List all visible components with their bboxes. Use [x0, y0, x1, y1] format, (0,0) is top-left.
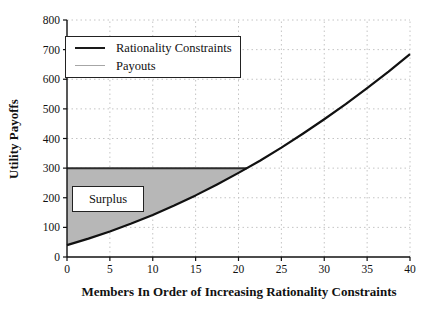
legend: Rationality Constraints Payouts	[65, 36, 241, 78]
x-axis-label: Members In Order of Increasing Rationali…	[66, 284, 412, 300]
x-tick-label-0: 0	[64, 263, 70, 275]
x-tick-label-15: 15	[190, 263, 202, 275]
rationality-constraints-line-sample	[75, 47, 105, 49]
legend-label-payouts: Payouts	[116, 59, 156, 73]
y-tick-label-100: 100	[43, 221, 61, 233]
x-tick-label-10: 10	[147, 263, 159, 275]
y-tick-label-200: 200	[43, 192, 61, 204]
payouts-line-sample	[75, 65, 105, 67]
x-tick-label-20: 20	[233, 263, 245, 275]
y-tick-label-300: 300	[43, 162, 61, 174]
y-tick-label-500: 500	[43, 103, 61, 115]
x-tick-label-30: 30	[319, 263, 331, 275]
y-tick-label-400: 400	[43, 133, 61, 145]
x-tick-label-5: 5	[107, 263, 113, 275]
surplus-annotation: Surplus	[72, 186, 144, 212]
y-tick-label-0: 0	[54, 251, 60, 263]
legend-item-payouts: Payouts	[75, 59, 240, 73]
y-tick-label-800: 800	[43, 14, 61, 26]
x-tick-label-25: 25	[276, 263, 288, 275]
x-tick-label-35: 35	[361, 263, 373, 275]
x-tick-label-40: 40	[404, 263, 416, 275]
legend-label-rationality-constraints: Rationality Constraints	[116, 41, 232, 55]
surplus-annotation-label: Surplus	[89, 192, 127, 207]
y-tick-label-700: 700	[43, 44, 61, 56]
y-axis-label: Utility Payoffs	[6, 79, 22, 199]
figure: 0510152025303540010020030040050060070080…	[0, 0, 434, 314]
y-tick-label-600: 600	[43, 73, 61, 85]
legend-item-rationality-constraints: Rationality Constraints	[75, 41, 240, 55]
